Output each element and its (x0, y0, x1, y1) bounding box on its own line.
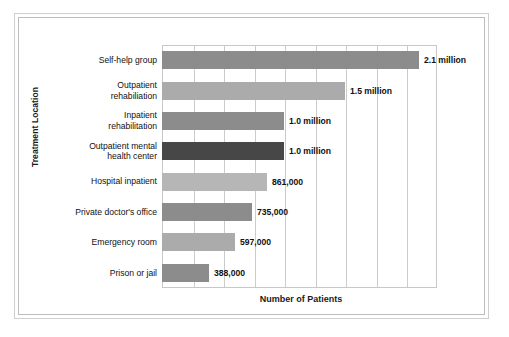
category-label-line: health center (29, 151, 157, 162)
bar (162, 142, 284, 160)
category-label: Prison or jail (29, 268, 157, 279)
category-label: Outpatient mentalhealth center (29, 141, 157, 162)
bar (162, 82, 345, 100)
chart-row: Private doctor's office735,000 (19, 197, 479, 227)
category-label-line: Outpatient mental (29, 141, 157, 152)
category-label-line: rehabiliation (29, 91, 157, 102)
bar-value-label: 597,000 (240, 237, 271, 247)
chart-row: Outpatientrehabiliation1.5 million (19, 75, 479, 105)
category-label-line: Prison or jail (29, 268, 157, 279)
bar-value-label: 861,000 (272, 177, 303, 187)
bar-value-label: 1.5 million (350, 86, 392, 96)
bar-value-label: 388,000 (214, 268, 245, 278)
category-label-line: Self-help group (29, 55, 157, 66)
category-label: Outpatientrehabiliation (29, 80, 157, 101)
bar (162, 203, 252, 221)
x-axis-title: Number of Patients (165, 294, 437, 304)
bar-value-label: 1.0 million (289, 116, 331, 126)
bars-and-labels-layer: Self-help group2.1 millionOutpatientreha… (19, 45, 479, 288)
category-label: Private doctor's office (29, 207, 157, 218)
category-label-line: Private doctor's office (29, 207, 157, 218)
chart-row: Inpatientrehabilitation1.0 million (19, 106, 479, 136)
chart-row: Hospital inpatient861,000 (19, 167, 479, 197)
category-label: Self-help group (29, 55, 157, 66)
bar (162, 233, 235, 251)
bar (162, 51, 419, 69)
category-label: Emergency room (29, 237, 157, 248)
bar (162, 112, 284, 130)
bar-value-label: 2.1 million (424, 55, 466, 65)
bar-value-label: 1.0 million (289, 146, 331, 156)
category-label: Hospital inpatient (29, 176, 157, 187)
figure-inner-frame: Treatment Location Self-help group2.1 mi… (18, 17, 485, 315)
category-label-line: Emergency room (29, 237, 157, 248)
bar (162, 173, 267, 191)
chart-row: Emergency room597,000 (19, 227, 479, 257)
chart-row: Outpatient mentalhealth center1.0 millio… (19, 136, 479, 166)
chart-row: Self-help group2.1 million (19, 45, 479, 75)
chart-row: Prison or jail388,000 (19, 258, 479, 288)
category-label: Inpatientrehabilitation (29, 110, 157, 131)
category-label-line: rehabilitation (29, 121, 157, 132)
figure-outer-frame: Treatment Location Self-help group2.1 mi… (14, 13, 489, 319)
bar-chart: Treatment Location Self-help group2.1 mi… (19, 18, 484, 314)
category-label-line: Inpatient (29, 110, 157, 121)
bar (162, 264, 209, 282)
bar-value-label: 735,000 (257, 207, 288, 217)
category-label-line: Hospital inpatient (29, 176, 157, 187)
category-label-line: Outpatient (29, 80, 157, 91)
